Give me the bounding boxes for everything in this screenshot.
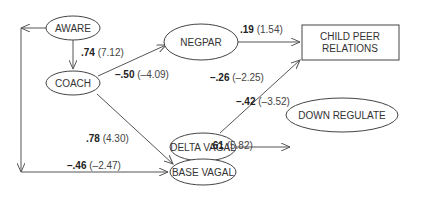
node-coach: COACH [46, 71, 100, 95]
node-aware-label: AWARE [55, 23, 91, 34]
edge-label-coach-basevagal: .78 (4.30) [86, 133, 129, 144]
path-diagram: AWARE COACH NEGPAR DELTA VAGAL BASE VAGA… [0, 0, 431, 198]
node-down-regulate-label: DOWN REGULATE [298, 110, 386, 121]
edge-label-aware-coach: .74 (7.12) [81, 47, 124, 58]
edge-label-negpar-childpeer: .19 (1.54) [240, 24, 283, 35]
node-child-peer-label-line1: CHILD PEER [320, 31, 380, 42]
edge-label-aware-basevagal: –.46 (–2.47) [67, 160, 121, 171]
node-base-vagal-label: BASE VAGAL [172, 167, 235, 178]
node-child-peer-relations: CHILD PEER RELATIONS [302, 25, 399, 60]
edge-label-deltavagal-downregulate: –.42 (–3.52) [236, 96, 290, 107]
edge-label-basevagal-deltavagal: .61 (5.82) [210, 140, 253, 151]
edge-coach-basevagal [97, 94, 173, 164]
node-aware: AWARE [46, 16, 100, 40]
node-base-vagal: BASE VAGAL [170, 159, 236, 185]
node-child-peer-label-line2: RELATIONS [322, 43, 378, 54]
node-negpar: NEGPAR [164, 24, 238, 60]
node-down-regulate: DOWN REGULATE [286, 98, 398, 132]
edge-label-deltavagal-childpeer: –.26 (–2.25) [210, 72, 264, 83]
node-coach-label: COACH [55, 78, 91, 89]
node-negpar-label: NEGPAR [180, 37, 222, 48]
edge-label-coach-negpar: –.50 (–4.09) [115, 69, 169, 80]
